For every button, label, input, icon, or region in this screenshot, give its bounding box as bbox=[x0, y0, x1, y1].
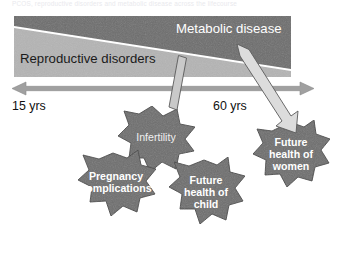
reproductive-disorders-label: Reproductive disorders bbox=[20, 51, 156, 66]
future-health-of-women-line-1: Future bbox=[275, 136, 308, 148]
future-health-of-child-line-1: Future bbox=[190, 174, 223, 186]
future-health-of-women-line-2: health of bbox=[269, 148, 314, 160]
axis-end-label: 60 yrs bbox=[213, 99, 247, 113]
future-health-of-child-line-2: health of bbox=[184, 186, 229, 198]
lifecourse-diagram: PCOS, reproductive disorders and metabol… bbox=[0, 0, 355, 265]
future-health-of-women-line-3: women bbox=[272, 160, 310, 172]
future-health-of-child-line-3: child bbox=[194, 198, 219, 210]
pregnancy-complications-line-2: complications bbox=[80, 182, 151, 194]
infertility-label: Infertility bbox=[136, 131, 176, 143]
axis-start-label: 15 yrs bbox=[12, 99, 46, 113]
figure-container: PCOS, reproductive disorders and metabol… bbox=[0, 0, 355, 265]
pregnancy-complications-line-1: Pregnancy bbox=[89, 170, 143, 182]
metabolic-disease-label: Metabolic disease bbox=[176, 21, 282, 36]
figure-caption: PCOS, reproductive disorders and metabol… bbox=[12, 0, 237, 8]
